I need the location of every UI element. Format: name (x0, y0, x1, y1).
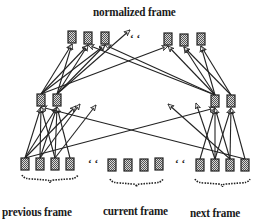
edge-n4-to-h1 (41, 107, 245, 159)
edge-p1-to-h3 (25, 108, 215, 158)
hidden-node (211, 95, 219, 107)
current-frame-node (124, 159, 132, 171)
frame-normalization-diagram: ʻ ʻʻ ʻʻ ʻ normalized frame previous fram… (0, 0, 266, 224)
next-frame-node (241, 159, 249, 171)
next-frame-node (226, 159, 234, 171)
current-frame-node (155, 158, 163, 170)
current-frame-node (140, 159, 148, 171)
next-frame-label: next frame (190, 205, 240, 221)
current-frame-label: current frame (103, 203, 168, 219)
hidden-node (37, 94, 45, 106)
hidden-node (227, 95, 235, 107)
output-node (197, 33, 205, 45)
next-frame-node (196, 159, 204, 171)
previous-frame-node (66, 158, 74, 170)
edge-h1-to-o4 (41, 46, 168, 94)
edge-p2-to-h1 (40, 107, 41, 158)
edge-h1-to-o1 (41, 44, 72, 94)
previous-frame-node (36, 158, 44, 170)
previous-frame-label: previous frame (2, 204, 72, 220)
edge-h4-to-o6 (201, 46, 231, 95)
network-graph: ʻ ʻʻ ʻʻ ʻ (0, 0, 266, 224)
output-node (84, 32, 92, 44)
edge-n4-to-h4 (231, 108, 245, 159)
output-node (68, 31, 76, 43)
edge-p3-to-mid_l3 (55, 105, 96, 158)
brace-next-frame (195, 179, 250, 187)
previous-frame-node (51, 158, 59, 170)
previous-frame-node (21, 158, 29, 170)
current-frame-node (108, 159, 116, 171)
output-node (180, 34, 188, 46)
edge-n3-to-h4 (230, 108, 231, 159)
hidden-node (53, 94, 61, 106)
output-node (164, 33, 172, 45)
edge-h1-to-o3 (41, 45, 105, 94)
next-frame-node (211, 159, 219, 171)
ellipsis-input-icon-2: ʻ ʻ (175, 157, 185, 169)
brace-previous-frame (22, 175, 78, 183)
output-node (101, 32, 109, 44)
normalized-frame-label: normalized frame (93, 4, 176, 20)
ellipsis-output-icon: ʻ ʻ (130, 32, 140, 44)
brace-current-frame (110, 179, 163, 187)
ellipsis-input-icon-1: ʻ ʻ (88, 157, 98, 169)
